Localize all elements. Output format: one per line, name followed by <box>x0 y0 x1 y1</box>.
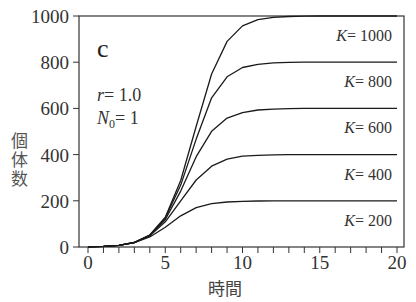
k-label-600: K= 600 <box>343 119 392 136</box>
k-label-1000: K= 1000 <box>335 27 392 44</box>
y-axis-label-char-1: 個 <box>11 131 28 151</box>
param-r-value: = 1.0 <box>104 85 141 105</box>
x-tick-label: 15 <box>310 252 329 273</box>
y-tick-label: 1000 <box>31 6 69 27</box>
y-axis-label: 個 体 数 <box>11 131 28 189</box>
param-n0-value: = 1 <box>115 108 139 128</box>
k-label-800: K= 800 <box>343 73 392 90</box>
y-tick-label: 200 <box>41 191 70 212</box>
y-tick-label: 800 <box>41 52 70 73</box>
y-axis-label-char-2: 体 <box>11 150 28 170</box>
panel-label: c <box>97 34 109 63</box>
k-label-400: K= 400 <box>343 166 392 183</box>
y-axis-label-char-3: 数 <box>11 169 28 189</box>
k-label-200: K= 200 <box>343 212 392 229</box>
param-r: r= 1.0 <box>97 85 141 105</box>
x-tick-label: 0 <box>83 252 93 273</box>
x-tick-label: 5 <box>161 252 171 273</box>
y-tick-label: 600 <box>41 98 70 119</box>
y-tick-label: 400 <box>41 145 70 166</box>
k-labels: K= 1000K= 800K= 600K= 400K= 200 <box>335 27 392 229</box>
axis-ticks: 0200400600800100005101520 <box>31 6 407 273</box>
x-axis-label: 時間 <box>208 279 242 299</box>
param-n0: N0= 1 <box>96 108 139 131</box>
x-tick-label: 20 <box>388 252 407 273</box>
logistic-growth-chart: 0200400600800100005101520 K= 1000K= 800K… <box>0 0 416 302</box>
param-n0-var: N <box>96 108 110 128</box>
x-tick-label: 10 <box>233 252 252 273</box>
y-tick-label: 0 <box>60 237 70 258</box>
